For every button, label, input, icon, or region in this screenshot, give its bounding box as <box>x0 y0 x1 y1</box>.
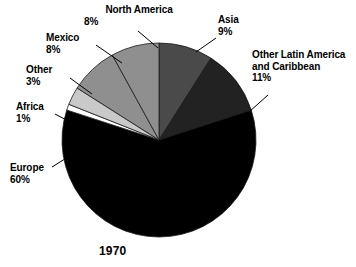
slice-label-europe-value: 60% <box>10 174 44 186</box>
pie-chart-figure: North America 8% Mexico 8% Other 3% Afri… <box>0 0 356 267</box>
slice-label-europe-name: Europe <box>10 162 44 174</box>
slice-label-other-latin-america-value: 11% <box>252 72 345 84</box>
slice-label-other-value: 3% <box>26 76 52 88</box>
pie-slices-group <box>62 43 256 237</box>
slice-label-other-latin-america-name-line2: and Caribbean <box>252 61 345 73</box>
slice-label-asia: Asia 9% <box>218 14 239 37</box>
slice-label-other: Other 3% <box>26 64 52 87</box>
slice-label-africa: Africa 1% <box>16 101 44 124</box>
slice-label-other-latin-america-name: Other Latin America <box>252 49 345 61</box>
slice-label-mexico-value: 8% <box>46 44 79 56</box>
slice-label-north-america-value: 8% <box>84 16 194 28</box>
slice-label-mexico: Mexico 8% <box>46 32 79 55</box>
slice-label-north-america: North America 8% <box>84 4 194 27</box>
chart-title-year: 1970 <box>99 244 127 258</box>
slice-label-north-america-name: North America <box>84 4 194 16</box>
slice-label-other-name: Other <box>26 64 52 76</box>
slice-label-other-latin-america: Other Latin America and Caribbean 11% <box>252 49 345 84</box>
slice-label-mexico-name: Mexico <box>46 32 79 44</box>
slice-label-africa-name: Africa <box>16 101 44 113</box>
slice-label-asia-value: 9% <box>218 26 239 38</box>
slice-label-africa-value: 1% <box>16 113 44 125</box>
slice-label-europe: Europe 60% <box>10 162 44 185</box>
leader-line-other-latin-america <box>249 95 268 112</box>
slice-label-asia-name: Asia <box>218 14 239 26</box>
leader-line-asia <box>196 38 216 52</box>
